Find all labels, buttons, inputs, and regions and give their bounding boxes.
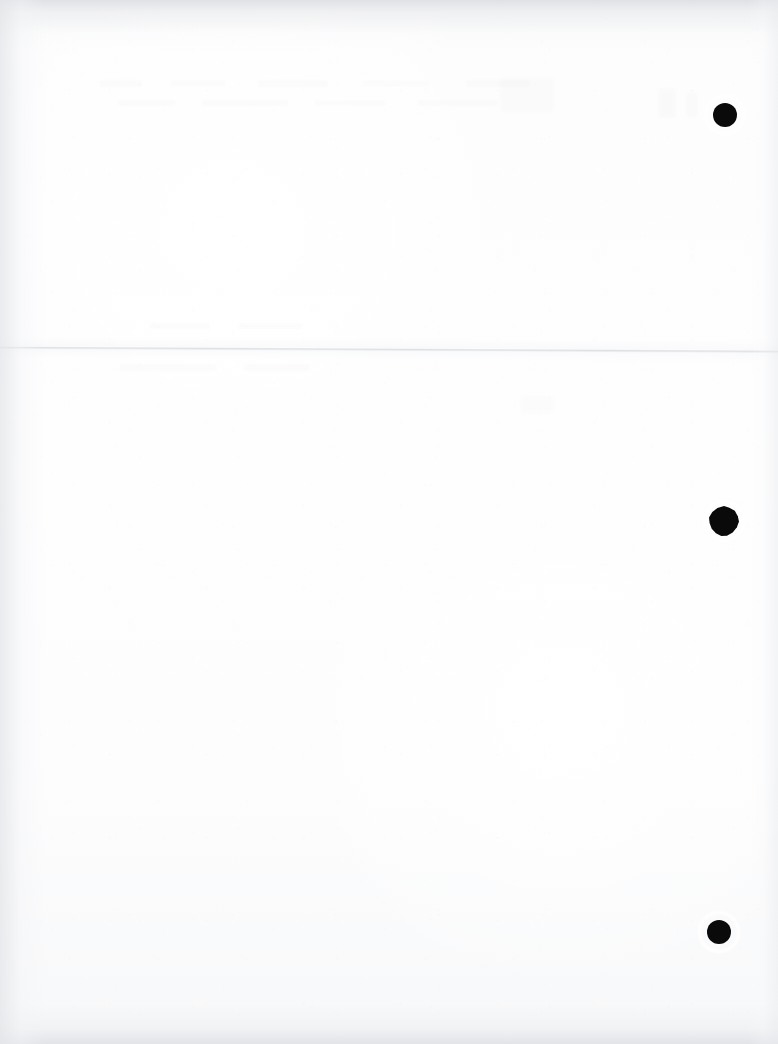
hole-bottom <box>707 920 731 944</box>
hole-middle <box>711 508 737 534</box>
paper-texture <box>0 0 778 1044</box>
hole-top <box>713 103 737 127</box>
scanned-page <box>0 0 778 1044</box>
